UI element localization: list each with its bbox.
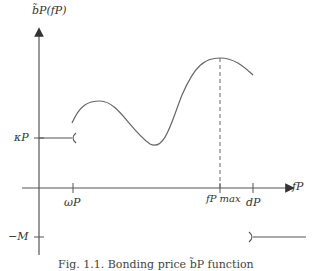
x-tick-fmax: fP max (206, 193, 241, 204)
x-axis-label: fP (292, 180, 303, 193)
x-tick-omega: ωP (64, 196, 80, 209)
x-tick-d: dP (246, 196, 260, 209)
y-axis-label: b̃P(fP) (32, 4, 67, 17)
y-tick-kappa: κP (14, 131, 29, 144)
figure-caption: Fig. 1.1. Bonding price b̃P function (58, 258, 254, 271)
y-tick-minus-m: −M (8, 230, 28, 243)
bid-curve (72, 58, 253, 145)
